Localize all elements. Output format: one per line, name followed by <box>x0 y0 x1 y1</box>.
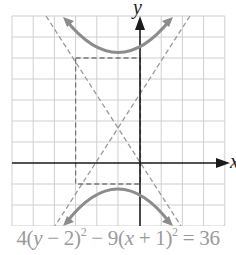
y-axis-label: y <box>133 0 142 19</box>
hyperbola-graph <box>0 0 236 226</box>
grid <box>12 16 225 226</box>
x-axis-label: x <box>230 150 236 173</box>
equation-caption: 4(y − 2)2 − 9(x + 1)2 = 36 <box>0 226 236 251</box>
x-axis-arrow-icon <box>216 158 230 168</box>
